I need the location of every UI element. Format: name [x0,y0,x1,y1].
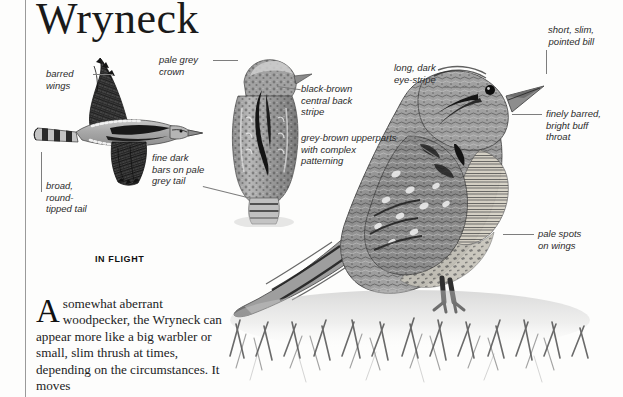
leader-long-dark-eye-stripe [444,87,476,88]
annotation-barred-wings: barred wings [46,68,73,91]
annotation-grey-brown-upperparts: grey-brown upperparts with complex patte… [301,132,397,167]
annotation-fine-dark-bars-tail: fine dark bars on pale grey tail [152,152,204,187]
page-title: Wryneck [36,0,199,45]
leader-barred-wings [93,74,113,75]
drop-cap: A [36,296,63,325]
annotation-finely-barred-bright-buff-throat: finely barred, bright buff throat [546,108,601,143]
field-guide-page: Wryneck [0,0,623,397]
annotation-pale-spots-on-wings: pale spots on wings [538,228,581,251]
leader-pale-grey-crown [213,60,238,61]
leader-pale-spots-on-wings [503,234,534,235]
leader-finely-barred-bright-buff-throat [512,114,542,115]
left-margin-rule [25,0,26,397]
leader-short-slim-pointed-bill [546,50,547,74]
species-description: Asomewhat aberrant woodpecker, the Wryne… [36,296,232,394]
annotation-long-dark-eye-stripe: long, dark eye-stripe [394,62,436,85]
illustration-grass-habitat [210,272,623,397]
annotation-short-slim-pointed-bill: short, slim, pointed bill [512,24,594,47]
description-paragraph: somewhat aberrant woodpecker, the Wrynec… [36,296,222,393]
leader-broad-round-tipped-tail [41,152,42,192]
annotation-black-brown-central-back-stripe: black-brown central back stripe [301,83,352,118]
caption-in-flight: IN FLIGHT [95,254,144,264]
annotation-pale-grey-crown: pale grey crown [159,54,198,77]
annotation-broad-round-tipped-tail: broad, round- tipped tail [46,180,87,215]
